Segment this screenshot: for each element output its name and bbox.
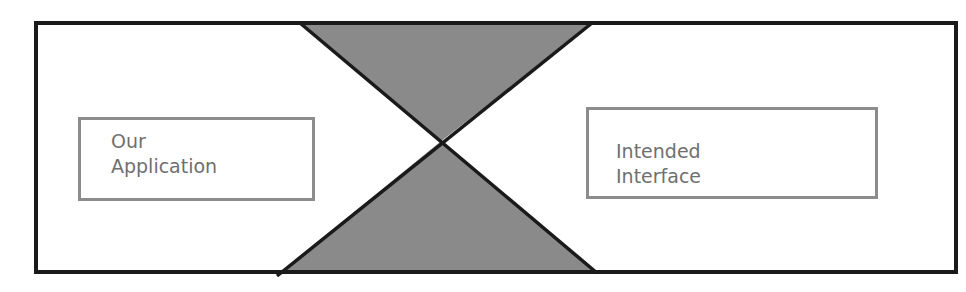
box-label-line: Intended [616,139,875,164]
intended-interface-box: Intended Interface [586,107,878,199]
box-label-line: Our [111,129,312,154]
box-label-line: Interface [616,164,875,189]
top-funnel-triangle [300,23,592,142]
our-application-box: Our Application [78,117,315,201]
bottom-funnel-triangle [281,142,597,272]
box-label-line: Application [111,154,312,179]
